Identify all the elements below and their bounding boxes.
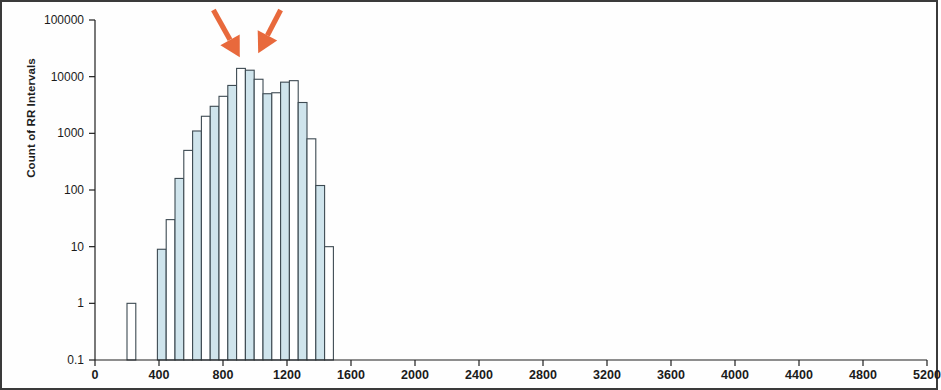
- y-axis-tick-label: 0.1: [67, 353, 84, 367]
- x-axis-tick-label: 4400: [785, 368, 813, 382]
- arrow-shaft: [213, 10, 230, 40]
- histogram-bar: [184, 150, 193, 360]
- histogram-bar: [228, 85, 237, 360]
- y-axis-tick-label: 10: [71, 240, 84, 254]
- x-axis-tick-label: 2800: [529, 368, 557, 382]
- histogram-bar: [289, 81, 298, 360]
- histogram-bar: [201, 116, 210, 360]
- histogram-bar: [325, 247, 334, 360]
- x-axis-tick-label: 3200: [593, 368, 621, 382]
- x-axis-tick-label: 4000: [721, 368, 749, 382]
- x-axis-tick-label: 800: [213, 368, 234, 382]
- x-axis-tick-label: 0: [92, 368, 99, 382]
- histogram-bar: [316, 186, 325, 360]
- histogram-bar: [263, 94, 272, 360]
- x-axis-tick-label: 2000: [401, 368, 429, 382]
- x-axis-tick-label: 1600: [337, 368, 365, 382]
- histogram-bar: [307, 139, 316, 360]
- x-axis-tick-label: 1200: [273, 368, 301, 382]
- y-axis-tick-label: 100000: [44, 13, 84, 27]
- x-axis-tick-label: 400: [149, 368, 170, 382]
- histogram-bar: [193, 131, 202, 360]
- histogram-bar: [298, 103, 307, 361]
- x-axis-tick-label: 2400: [465, 368, 493, 382]
- histogram-bar: [166, 220, 175, 360]
- arrow-right: [258, 10, 281, 53]
- histogram-bar: [219, 96, 228, 360]
- histogram-bar: [157, 249, 166, 360]
- histogram-bar: [254, 79, 263, 360]
- x-axis-tick-label: 4800: [849, 368, 877, 382]
- annotation-arrows-group: [213, 10, 280, 57]
- histogram-bar: [127, 303, 136, 360]
- histogram-bar: [272, 93, 281, 360]
- y-axis-tick-label: 100: [64, 183, 84, 197]
- x-axis-tick-label: 3600: [657, 368, 685, 382]
- bars-group: [127, 68, 333, 360]
- histogram-plot: [2, 2, 940, 390]
- histogram-bar: [210, 106, 219, 360]
- x-axis-tick-label: 5200: [913, 368, 941, 382]
- arrow-left: [213, 10, 239, 57]
- arrow-shaft: [267, 10, 280, 35]
- y-axis-tick-label: 10000: [51, 70, 84, 84]
- histogram-bar: [237, 68, 246, 360]
- histogram-bar: [245, 70, 254, 360]
- y-axis-tick-label: 1000: [57, 126, 84, 140]
- histogram-bar: [175, 178, 184, 360]
- histogram-bar: [281, 82, 290, 360]
- y-axis-tick-label: 1: [77, 296, 84, 310]
